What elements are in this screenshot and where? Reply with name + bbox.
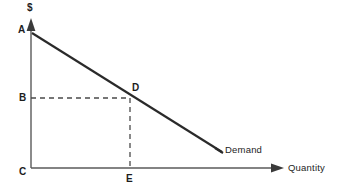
point-label-a: A: [18, 25, 25, 35]
x-axis-label-quantity: Quantity: [288, 163, 325, 173]
demand-label-leader: [215, 148, 223, 153]
point-label-d: D: [132, 83, 139, 93]
demand-curve-line: [32, 33, 222, 152]
y-axis-label-dollar: $: [27, 3, 33, 13]
point-label-c: C: [19, 167, 26, 177]
y-axis-arrowhead-icon: [27, 18, 36, 31]
demand-curve-label: Demand: [225, 145, 262, 155]
point-label-b: B: [19, 93, 26, 103]
demand-curve-diagram: $ A B C D E Demand Quantity: [0, 0, 338, 193]
x-axis-arrowhead-icon: [271, 164, 284, 173]
point-label-e: E: [126, 174, 133, 184]
